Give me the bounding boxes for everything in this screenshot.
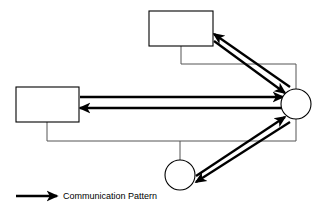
- diagram-canvas: Communication Pattern: [0, 0, 334, 213]
- node-left-box[interactable]: [16, 87, 79, 122]
- arrow-bottom-circle-to-circle[interactable]: [196, 117, 285, 176]
- legend-label: Communication Pattern: [63, 191, 157, 201]
- topology-diagram: Communication Pattern: [0, 0, 334, 213]
- node-right-circle[interactable]: [281, 89, 311, 119]
- node-top-box[interactable]: [149, 11, 213, 46]
- arrow-circle-to-bottom-circle[interactable]: [196, 122, 290, 182]
- node-bottom-circle[interactable]: [165, 160, 195, 190]
- arrow-circle-to-top-box[interactable]: [214, 34, 290, 87]
- bus-segment-bottom-run: [47, 119, 296, 141]
- legend: Communication Pattern: [16, 191, 157, 201]
- node-group: [16, 11, 311, 190]
- bus-segment-top-run: [181, 64, 296, 89]
- communication-arrow-group: [80, 34, 290, 182]
- arrow-top-box-to-circle[interactable]: [214, 41, 285, 93]
